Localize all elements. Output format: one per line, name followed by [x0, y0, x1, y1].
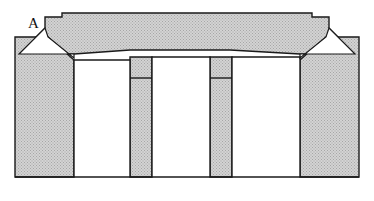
- callout-label-a: A: [28, 16, 39, 31]
- top-plate: [19, 13, 355, 54]
- cavity-right: [232, 57, 300, 177]
- figure-container: A: [0, 0, 374, 201]
- cavity-center: [152, 57, 210, 177]
- cavities-group: [74, 57, 300, 177]
- base-block-left: [15, 37, 74, 177]
- cavity-left: [74, 60, 130, 177]
- cross-section-drawing: [0, 0, 374, 201]
- base-block-right: [300, 37, 359, 177]
- pillar-left: [130, 57, 152, 177]
- pillar-right: [210, 57, 232, 177]
